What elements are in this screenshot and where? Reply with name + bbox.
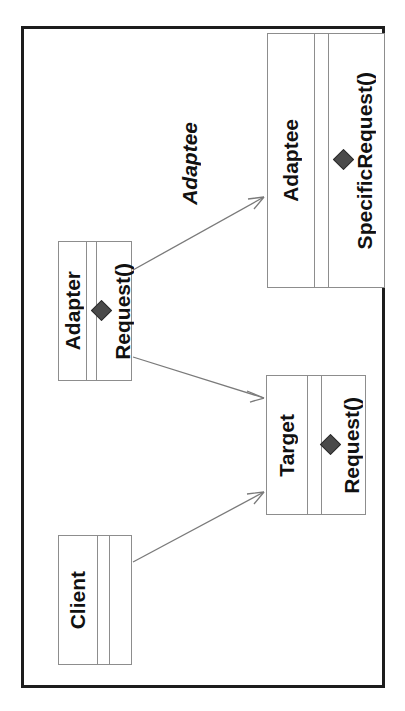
diagram-page: Adaptee SpecificRequest() Adapter Reques… — [0, 0, 405, 711]
adaptee-attributes-compartment — [315, 34, 329, 287]
adapter-operation-row: Request() — [94, 263, 135, 360]
adaptee-operation-label: SpecificRequest() — [353, 72, 377, 249]
adaptee-name-compartment: Adaptee — [268, 34, 315, 287]
target-operations-compartment: Request() — [322, 376, 365, 514]
adapter-operation-label: Request() — [111, 263, 135, 360]
adaptee-operation-row: SpecificRequest() — [336, 72, 377, 249]
client-name-compartment: Client — [59, 536, 98, 664]
client-attributes-compartment — [98, 536, 110, 664]
client-operations-compartment — [110, 536, 131, 664]
adaptee-operations-compartment: SpecificRequest() — [329, 34, 384, 287]
target-name-compartment: Target — [267, 376, 308, 514]
uml-class-adapter[interactable]: Adapter Request() — [58, 241, 132, 381]
uml-class-target[interactable]: Target Request() — [266, 375, 366, 515]
filled-diamond-icon — [90, 299, 111, 320]
adapter-class-name: Adapter — [61, 271, 85, 350]
association-label-adaptee: Adaptee — [178, 122, 202, 205]
adaptee-class-name: Adaptee — [279, 119, 303, 202]
uml-class-adaptee[interactable]: Adaptee SpecificRequest() — [267, 33, 385, 288]
uml-class-client[interactable]: Client — [58, 535, 132, 665]
target-operation-label: Request() — [340, 397, 364, 494]
adapter-name-compartment: Adapter — [59, 242, 87, 380]
filled-diamond-icon — [320, 433, 341, 454]
target-class-name: Target — [275, 414, 299, 477]
filled-diamond-icon — [333, 149, 354, 170]
target-operation-row: Request() — [323, 397, 364, 494]
adapter-operations-compartment: Request() — [97, 242, 131, 380]
client-class-name: Client — [66, 571, 90, 629]
